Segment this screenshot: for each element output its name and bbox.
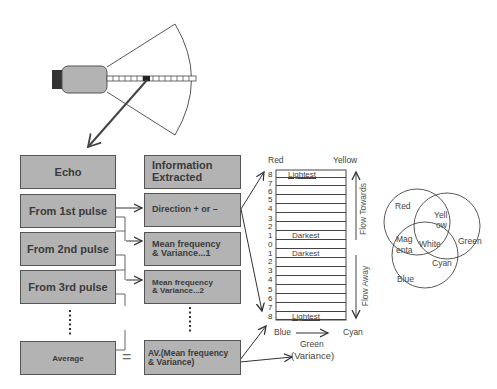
echo-header-label: Echo: [55, 166, 82, 178]
scale-row: [276, 214, 346, 222]
echo-box-average: Average: [20, 341, 116, 375]
scale-lightest-top: Lightest: [288, 170, 316, 179]
scale-row: [276, 286, 346, 294]
scale-label-red: Red: [268, 155, 284, 165]
info-box-line2: & Variance...2: [152, 287, 204, 295]
info-box-line2: & Variance): [148, 358, 194, 367]
scale-number: 7: [268, 303, 272, 312]
echo-box-label: Average: [52, 354, 83, 363]
venn-label-white: White: [419, 239, 441, 249]
scale-row: [276, 205, 346, 213]
scale-number: 5: [268, 195, 272, 204]
info-box-mean-variance-2: Mean frequency & Variance...2: [144, 270, 241, 304]
scale-label-blue: Blue: [274, 327, 291, 337]
venn-label-cyan: Cyan: [432, 258, 452, 268]
scale-lightest-bottom: Lightest: [292, 312, 320, 321]
scale-label-green: Green: [300, 339, 324, 349]
info-header-line2: Extracted: [152, 172, 202, 184]
scale-darkest-top: Darkest: [292, 231, 320, 240]
scale-row: [276, 241, 346, 249]
scale-row: [276, 196, 346, 204]
scale-number: 0: [268, 240, 272, 249]
venn-label-yellow-2: ow: [436, 220, 447, 230]
scale-number: 1: [268, 231, 272, 240]
echo-box-label: From 1st pulse: [29, 205, 107, 217]
scale-label-cyan: Cyan: [343, 327, 363, 337]
scale-number: 8: [268, 312, 272, 321]
scale-number: 2: [268, 257, 272, 266]
venn-label-blue: Blue: [397, 274, 414, 284]
echo-box-1st-pulse: From 1st pulse: [20, 194, 116, 228]
echo-box-label: From 3rd pulse: [28, 281, 107, 293]
transducer-icon: [52, 66, 107, 93]
info-box-line2: & Variance...1: [152, 249, 211, 258]
equals-sign: =: [122, 348, 131, 366]
scale-number: 2: [268, 222, 272, 231]
scale-row: [276, 178, 346, 186]
scale-label-yellow: Yellow: [333, 155, 357, 165]
scale-row: [276, 295, 346, 303]
scale-row: [276, 223, 346, 231]
info-box-line1: Direction + or –: [152, 205, 218, 214]
scale-number: 6: [268, 294, 272, 303]
scale-row: [276, 268, 346, 276]
venn-label-green: Green: [458, 236, 482, 246]
scale-row: [276, 277, 346, 285]
echo-header: Echo: [20, 155, 116, 189]
echo-box-label: From 2nd pulse: [27, 243, 109, 255]
venn-label-magenta-1: Mag: [396, 234, 413, 244]
scale-number: 4: [268, 275, 272, 284]
info-box-mean-variance-1: Mean frequency & Variance...1: [144, 232, 241, 266]
info-header: Information Extracted: [144, 155, 241, 189]
scale-number: 3: [268, 266, 272, 275]
echo-box-2nd-pulse: From 2nd pulse: [20, 232, 116, 266]
flow-away-label: Flow Away: [360, 266, 370, 306]
scale-label-variance: (Variance): [291, 350, 334, 361]
scale-number: 4: [268, 204, 272, 213]
scale-darkest-bottom: Darkest: [292, 249, 320, 258]
scale-number: 8: [268, 170, 272, 179]
scale-row: [276, 187, 346, 195]
info-box-direction: Direction + or –: [144, 193, 241, 227]
scale-row: [276, 304, 346, 312]
flow-towards-label: Flow Towards: [358, 183, 368, 235]
info-box-average: AV.(Mean frequency & Variance): [144, 340, 241, 375]
scale-number: 5: [268, 285, 272, 294]
venn-label-magenta-2: enta: [396, 245, 413, 255]
ultrasound-sector: [107, 24, 196, 135]
venn-label-yellow-1: Yell: [434, 210, 447, 220]
echo-box-3rd-pulse: From 3rd pulse: [20, 270, 116, 304]
venn-label-red: Red: [395, 201, 411, 211]
scale-row: [276, 259, 346, 267]
